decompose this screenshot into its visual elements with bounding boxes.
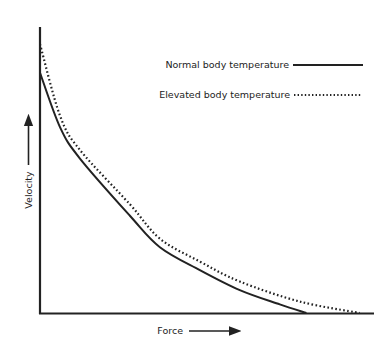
normal-temperature-curve [40,73,306,313]
x-axis-label: Force [157,325,183,336]
y-axis-label: Velocity [23,171,34,209]
y-axis-label-group: Velocity [23,120,34,209]
legend-label-elevated: Elevated body temperature [159,89,290,100]
legend-label-normal: Normal body temperature [165,59,289,70]
force-velocity-chart: Normal body temperature Elevated body te… [0,0,392,348]
elevated-temperature-curve [40,44,360,313]
x-axis-label-group: Force [157,325,235,336]
legend: Normal body temperature Elevated body te… [159,59,363,100]
